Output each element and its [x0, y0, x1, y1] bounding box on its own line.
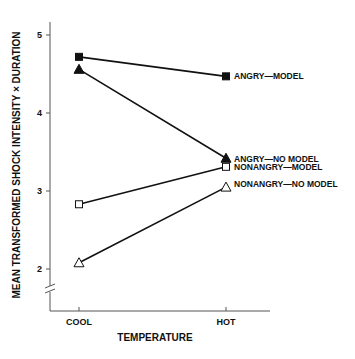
square-marker — [76, 201, 83, 208]
series-nonangry-no-model: NONANGRY—NO MODEL — [74, 179, 338, 267]
series-label: NONANGRY—NO MODEL — [234, 179, 338, 189]
y-tick-label: 4 — [37, 108, 42, 118]
x-axis-title: TEMPERATURE — [117, 332, 193, 343]
triangle-marker — [74, 64, 84, 73]
y-tick-label: 3 — [37, 186, 42, 196]
triangle-marker — [221, 153, 231, 162]
square-marker — [223, 163, 230, 170]
series-group: ANGRY—MODELANGRY—NO MODELNONANGRY—MODELN… — [74, 53, 338, 266]
square-marker — [223, 73, 230, 80]
y-axis-title: MEAN TRANSFORMED SHOCK INTENSITY × DURAT… — [11, 31, 22, 298]
series-line — [79, 69, 226, 158]
y-tick-label: 5 — [37, 30, 42, 40]
series-label: NONANGRY—MODEL — [234, 162, 322, 172]
square-marker — [76, 53, 83, 60]
axes: 2345COOLHOT — [37, 22, 270, 327]
series-angry-model: ANGRY—MODEL — [76, 53, 304, 81]
y-tick-label: 2 — [37, 264, 42, 274]
triangle-marker — [74, 258, 84, 267]
series-label: ANGRY—MODEL — [234, 71, 304, 81]
x-tick-label: COOL — [66, 317, 93, 327]
line-chart: 2345COOLHOT ANGRY—MODELANGRY—NO MODELNON… — [0, 0, 355, 359]
series-line — [79, 57, 226, 76]
triangle-marker — [221, 182, 231, 191]
x-tick-label: HOT — [217, 317, 237, 327]
